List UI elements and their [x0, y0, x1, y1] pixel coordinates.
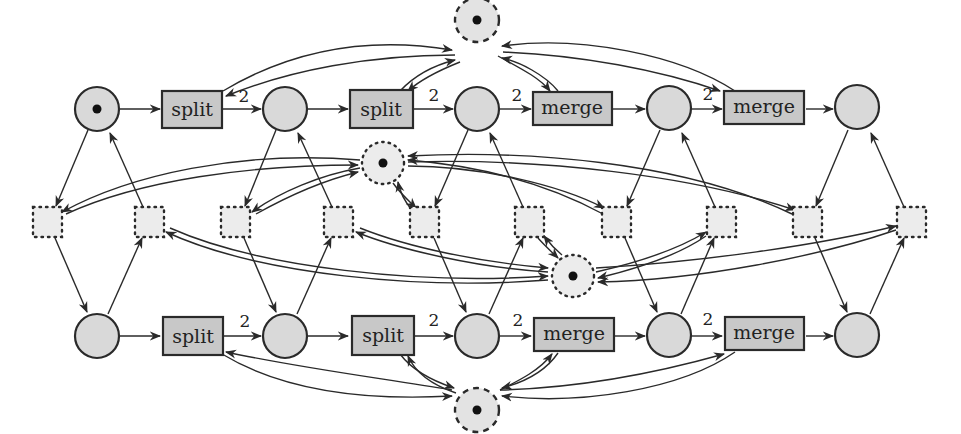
resource-place-mid-lower[interactable]: [552, 255, 594, 297]
vertical-arcs: [55, 130, 904, 314]
resource-place-mid-upper[interactable]: [362, 142, 404, 184]
transition-bottom-merge-1[interactable]: merge: [534, 318, 614, 351]
place-top-3[interactable]: [455, 87, 499, 131]
place-bottom-4[interactable]: [647, 313, 691, 357]
transition-label: merge: [543, 322, 605, 344]
transition-bottom-merge-2[interactable]: merge: [725, 317, 804, 350]
transition-label: merge: [541, 96, 603, 118]
transition-bottom-split-1[interactable]: split: [163, 317, 223, 355]
aux-transition-10[interactable]: [897, 207, 926, 237]
token-icon: [473, 406, 482, 415]
place-top-5[interactable]: [835, 85, 879, 129]
mid-upper-resource-arcs: [62, 154, 795, 214]
weight-label: 2: [240, 311, 251, 331]
weight-label: 2: [239, 86, 250, 106]
place-top-1[interactable]: [75, 87, 119, 131]
aux-transition-2[interactable]: [135, 207, 164, 237]
token-icon: [379, 159, 388, 168]
resource-place-top[interactable]: [455, 0, 499, 42]
transition-label: split: [362, 324, 404, 346]
weight-label: 2: [512, 85, 523, 105]
aux-transition-4[interactable]: [324, 207, 353, 237]
aux-transition-3[interactable]: [221, 207, 250, 237]
transition-label: split: [172, 325, 214, 347]
aux-transition-6[interactable]: [515, 207, 544, 237]
weight-label: 2: [703, 309, 714, 329]
token-icon: [473, 16, 482, 25]
weight-label: 2: [513, 310, 524, 330]
transition-label: merge: [733, 321, 795, 343]
resource-place-bottom[interactable]: [455, 388, 499, 432]
transition-top-split-1[interactable]: split: [162, 91, 222, 128]
aux-transition-8[interactable]: [707, 207, 736, 237]
place-bottom-2[interactable]: [263, 314, 307, 358]
aux-transition-7[interactable]: [602, 207, 631, 237]
weight-label: 2: [429, 310, 440, 330]
token-icon: [569, 272, 578, 281]
transition-bottom-split-2[interactable]: split: [352, 316, 414, 355]
transition-label: merge: [733, 95, 795, 117]
transition-label: split: [360, 98, 402, 120]
transition-top-merge-2[interactable]: merge: [724, 91, 804, 124]
aux-transition-1[interactable]: [33, 207, 62, 237]
transition-label: split: [171, 98, 213, 120]
aux-transition-5[interactable]: [410, 207, 439, 237]
transition-top-split-2[interactable]: split: [350, 90, 413, 128]
transition-top-merge-1[interactable]: merge: [533, 92, 612, 125]
place-top-2[interactable]: [263, 87, 307, 131]
place-bottom-1[interactable]: [75, 314, 119, 358]
petri-net-diagram: split split merge merge split split merg…: [0, 0, 961, 434]
place-top-4[interactable]: [647, 86, 691, 130]
token-icon: [93, 105, 102, 114]
weight-label: 2: [703, 84, 714, 104]
place-bottom-5[interactable]: [835, 313, 879, 357]
place-bottom-3[interactable]: [455, 314, 499, 358]
aux-transition-9[interactable]: [793, 207, 822, 237]
weight-label: 2: [429, 85, 440, 105]
